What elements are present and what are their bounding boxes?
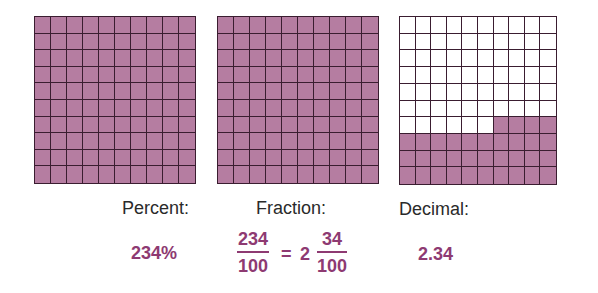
shaded-cell bbox=[525, 134, 541, 151]
empty-cell bbox=[478, 101, 494, 118]
empty-cell bbox=[540, 50, 556, 67]
shaded-cell bbox=[314, 17, 330, 34]
shaded-cell bbox=[115, 100, 131, 117]
shaded-cell bbox=[362, 100, 378, 117]
shaded-cell bbox=[250, 166, 266, 183]
shaded-cell bbox=[179, 67, 195, 84]
shaded-cell bbox=[35, 50, 51, 67]
empty-cell bbox=[400, 17, 416, 34]
shaded-cell bbox=[362, 50, 378, 67]
shaded-cell bbox=[51, 67, 67, 84]
empty-cell bbox=[447, 117, 463, 134]
shaded-cell bbox=[282, 100, 298, 117]
shaded-cell bbox=[314, 100, 330, 117]
shaded-cell bbox=[314, 50, 330, 67]
shaded-cell bbox=[35, 100, 51, 117]
shaded-cell bbox=[234, 67, 250, 84]
shaded-cell bbox=[131, 67, 147, 84]
shaded-cell bbox=[540, 151, 556, 168]
shaded-cell bbox=[462, 151, 478, 168]
shaded-cell bbox=[478, 151, 494, 168]
shaded-cell bbox=[131, 17, 147, 34]
shaded-cell bbox=[330, 67, 346, 84]
empty-cell bbox=[416, 101, 432, 118]
shaded-cell bbox=[362, 150, 378, 167]
shaded-cell bbox=[51, 133, 67, 150]
shaded-cell bbox=[346, 17, 362, 34]
shaded-cell bbox=[250, 117, 266, 134]
equals-sign: = bbox=[281, 245, 292, 263]
empty-cell bbox=[462, 17, 478, 34]
empty-cell bbox=[462, 34, 478, 51]
shaded-cell bbox=[51, 83, 67, 100]
shaded-cell bbox=[115, 34, 131, 51]
shaded-cell bbox=[330, 166, 346, 183]
shaded-cell bbox=[163, 50, 179, 67]
shaded-cell bbox=[147, 17, 163, 34]
shaded-cell bbox=[163, 34, 179, 51]
shaded-cell bbox=[179, 166, 195, 183]
shaded-cell bbox=[314, 83, 330, 100]
empty-cell bbox=[462, 67, 478, 84]
empty-cell bbox=[525, 101, 541, 118]
shaded-cell bbox=[330, 17, 346, 34]
decimal-value: 2.34 bbox=[418, 245, 453, 263]
shaded-cell bbox=[282, 67, 298, 84]
shaded-cell bbox=[416, 134, 432, 151]
shaded-cell bbox=[218, 133, 234, 150]
shaded-cell bbox=[234, 117, 250, 134]
mixed-denominator: 100 bbox=[317, 253, 347, 275]
shaded-cell bbox=[131, 117, 147, 134]
decimal-label: Decimal: bbox=[399, 200, 469, 218]
shaded-cell bbox=[346, 50, 362, 67]
shaded-cell bbox=[67, 50, 83, 67]
shaded-cell bbox=[99, 150, 115, 167]
empty-cell bbox=[478, 34, 494, 51]
shaded-cell bbox=[35, 83, 51, 100]
empty-cell bbox=[509, 17, 525, 34]
empty-cell bbox=[431, 17, 447, 34]
fraction-numerator: 234 bbox=[237, 230, 269, 251]
shaded-cell bbox=[266, 100, 282, 117]
empty-cell bbox=[431, 34, 447, 51]
shaded-cell bbox=[266, 67, 282, 84]
empty-cell bbox=[509, 50, 525, 67]
shaded-cell bbox=[99, 17, 115, 34]
shaded-cell bbox=[362, 67, 378, 84]
decimal-grid bbox=[399, 16, 557, 185]
empty-cell bbox=[416, 84, 432, 101]
shaded-cell bbox=[147, 150, 163, 167]
shaded-cell bbox=[525, 151, 541, 168]
shaded-cell bbox=[509, 117, 525, 134]
shaded-cell bbox=[494, 117, 510, 134]
shaded-cell bbox=[147, 83, 163, 100]
shaded-cell bbox=[115, 117, 131, 134]
shaded-cell bbox=[266, 83, 282, 100]
shaded-cell bbox=[400, 134, 416, 151]
shaded-cell bbox=[99, 83, 115, 100]
shaded-cell bbox=[234, 17, 250, 34]
shaded-cell bbox=[35, 34, 51, 51]
empty-cell bbox=[447, 84, 463, 101]
shaded-cell bbox=[131, 150, 147, 167]
empty-cell bbox=[509, 67, 525, 84]
shaded-cell bbox=[330, 100, 346, 117]
shaded-cell bbox=[115, 133, 131, 150]
shaded-cell bbox=[540, 134, 556, 151]
shaded-cell bbox=[67, 83, 83, 100]
shaded-cell bbox=[179, 100, 195, 117]
empty-cell bbox=[400, 84, 416, 101]
empty-cell bbox=[447, 17, 463, 34]
shaded-cell bbox=[540, 117, 556, 134]
shaded-cell bbox=[266, 166, 282, 183]
shaded-cell bbox=[346, 117, 362, 134]
shaded-cell bbox=[131, 166, 147, 183]
empty-cell bbox=[447, 101, 463, 118]
empty-cell bbox=[540, 34, 556, 51]
shaded-cell bbox=[462, 167, 478, 184]
empty-cell bbox=[431, 101, 447, 118]
empty-cell bbox=[509, 34, 525, 51]
shaded-cell bbox=[346, 67, 362, 84]
shaded-cell bbox=[234, 83, 250, 100]
mixed-fraction: 34 100 bbox=[317, 230, 347, 275]
